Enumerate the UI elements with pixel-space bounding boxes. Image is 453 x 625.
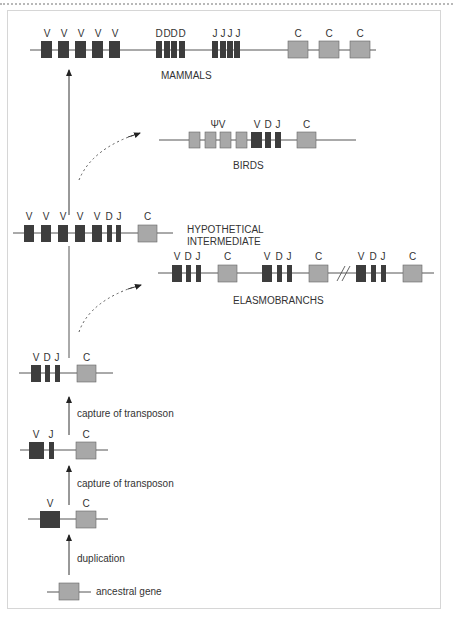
label-d: D xyxy=(184,252,192,262)
label-d: D xyxy=(170,29,178,39)
label-j: J xyxy=(194,252,202,262)
label-j: J xyxy=(234,29,242,39)
ancestral-gene-label: ancestral gene xyxy=(96,587,162,597)
label-c: C xyxy=(218,252,237,262)
label-d: D xyxy=(264,120,272,130)
label-v: V xyxy=(75,212,85,222)
ancestral-locus xyxy=(47,583,91,600)
step-capture-transposon-2: capture of transposon xyxy=(77,409,174,419)
elasmobranchs-locus xyxy=(158,265,434,282)
label-j: J xyxy=(211,29,219,39)
birds-label: BIRDS xyxy=(233,161,264,171)
label-v: V xyxy=(356,252,366,262)
label-d: D xyxy=(105,212,113,222)
label-d: D xyxy=(155,29,163,39)
label-d: D xyxy=(43,353,51,363)
label-c: C xyxy=(319,29,339,39)
label-v: V xyxy=(58,212,68,222)
label-j: J xyxy=(115,212,123,222)
step-capture-transposon-1: capture of transposon xyxy=(77,479,174,489)
label-j: J xyxy=(274,120,282,130)
mammals-label: MAMMALS xyxy=(161,71,212,81)
hypothetical-locus xyxy=(13,225,173,242)
label-v: V xyxy=(92,212,102,222)
curved-arrow-to-elasmobranchs xyxy=(79,285,140,332)
pseudo-v-label: ΨV xyxy=(204,120,232,130)
label-c: C xyxy=(76,499,96,509)
label-c: C xyxy=(297,120,316,130)
label-c: C xyxy=(309,252,328,262)
label-d: D xyxy=(275,252,283,262)
hypothetical-label-line2: INTERMEDIATE xyxy=(187,237,261,247)
label-c: C xyxy=(403,252,422,262)
label-v: V xyxy=(76,29,86,39)
curved-arrow-to-birds xyxy=(79,133,140,180)
elasmobranchs-label: ELASMOBRANCHS xyxy=(233,296,324,306)
label-v: V xyxy=(31,430,41,440)
label-c: C xyxy=(138,212,157,222)
label-j: J xyxy=(47,430,55,440)
label-c: C xyxy=(76,430,96,440)
vdjc-locus xyxy=(19,365,113,382)
label-v: V xyxy=(110,29,120,39)
hypothetical-label-line1: HYPOTHETICAL xyxy=(187,225,264,235)
label-j: J xyxy=(379,252,387,262)
step-duplication: duplication xyxy=(77,554,125,564)
label-v: V xyxy=(252,120,262,130)
label-c: C xyxy=(350,29,370,39)
label-v: V xyxy=(31,353,41,363)
label-c: C xyxy=(77,353,96,363)
label-v: V xyxy=(172,252,182,262)
label-v: V xyxy=(41,212,51,222)
vjc-locus xyxy=(20,442,108,459)
birds-locus xyxy=(159,132,356,148)
label-v: V xyxy=(42,29,52,39)
label-v: V xyxy=(40,499,60,509)
label-c: C xyxy=(288,29,308,39)
vc-locus xyxy=(28,511,108,528)
label-v: V xyxy=(262,252,272,262)
diagram-graphics xyxy=(0,0,453,625)
label-v: V xyxy=(59,29,69,39)
label-d: D xyxy=(178,29,186,39)
label-j: J xyxy=(53,353,61,363)
label-j: J xyxy=(226,29,234,39)
label-j: J xyxy=(285,252,293,262)
label-v: V xyxy=(24,212,34,222)
mammals-locus xyxy=(30,41,376,58)
label-v: V xyxy=(93,29,103,39)
label-d: D xyxy=(369,252,377,262)
